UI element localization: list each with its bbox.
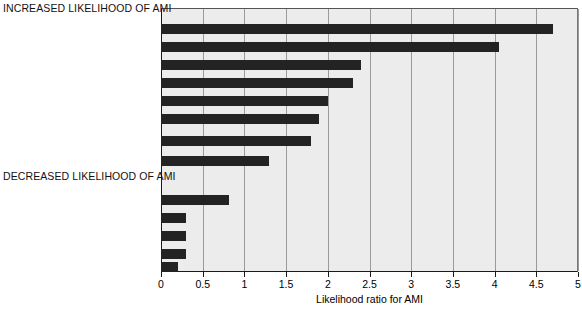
x-axis-tick-label: 2.5 bbox=[350, 278, 390, 290]
x-axis-tick bbox=[244, 272, 245, 277]
bar bbox=[161, 42, 499, 52]
bar bbox=[161, 114, 319, 124]
bar bbox=[161, 156, 269, 166]
x-axis-tick bbox=[411, 272, 412, 277]
x-axis-tick bbox=[495, 272, 496, 277]
section-banner-decreased: DECREASED LIKELIHOOD OF AMI bbox=[3, 170, 176, 182]
gridline bbox=[536, 9, 537, 271]
x-axis-tick bbox=[578, 272, 579, 277]
bar bbox=[161, 136, 311, 146]
x-axis-tick-label: 4.5 bbox=[516, 278, 556, 290]
bar bbox=[161, 213, 186, 223]
bar bbox=[161, 60, 361, 70]
x-axis-tick-label: 4 bbox=[475, 278, 515, 290]
bar bbox=[161, 231, 186, 241]
bar bbox=[161, 262, 178, 272]
x-axis-tick-label: 0.5 bbox=[183, 278, 223, 290]
x-axis-tick bbox=[203, 272, 204, 277]
x-axis-tick-label: 1 bbox=[224, 278, 264, 290]
x-axis-title: Likelihood ratio for AMI bbox=[161, 293, 578, 305]
bar bbox=[161, 24, 553, 34]
x-axis-tick bbox=[453, 272, 454, 277]
gridline bbox=[578, 9, 579, 271]
x-axis-tick bbox=[328, 272, 329, 277]
x-axis-tick bbox=[161, 272, 162, 277]
bar bbox=[161, 96, 328, 106]
section-banner-increased: INCREASED LIKELIHOOD OF AMI bbox=[3, 2, 171, 14]
bar bbox=[161, 78, 353, 88]
x-axis-tick bbox=[286, 272, 287, 277]
likelihood-ratio-bar-chart: INCREASED LIKELIHOOD OF AMI DECREASED LI… bbox=[0, 0, 582, 314]
x-axis-tick-label: 2 bbox=[308, 278, 348, 290]
x-axis-tick-label: 3.5 bbox=[433, 278, 473, 290]
x-axis-tick-label: 1.5 bbox=[266, 278, 306, 290]
bar bbox=[161, 249, 186, 259]
x-axis-tick-label: 3 bbox=[391, 278, 431, 290]
x-axis-tick bbox=[370, 272, 371, 277]
x-axis-tick bbox=[536, 272, 537, 277]
x-axis-tick-label: 5 bbox=[558, 278, 582, 290]
x-axis-tick-label: 0 bbox=[141, 278, 181, 290]
bar bbox=[161, 195, 229, 205]
